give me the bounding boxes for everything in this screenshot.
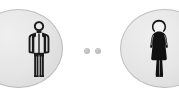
connector-dot-1 <box>84 48 90 54</box>
female-person-icon <box>142 19 176 79</box>
male-person-icon <box>22 20 56 78</box>
connector-dot-2 <box>95 48 101 54</box>
person-node-female[interactable] <box>120 9 179 88</box>
person-node-male[interactable] <box>0 9 63 88</box>
scene-canvas <box>0 0 179 104</box>
